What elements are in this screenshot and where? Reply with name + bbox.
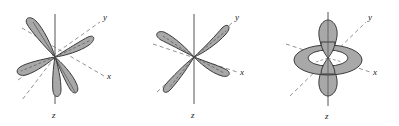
x-axis-label: x xyxy=(106,71,111,81)
z-axis-label: z xyxy=(51,110,56,120)
y-axis-label: y xyxy=(234,12,239,22)
y-axis-label: y xyxy=(367,12,372,22)
orbital-panel-1: y x z xyxy=(0,0,133,126)
x-axis-label: x xyxy=(239,67,244,77)
orbital-lobes xyxy=(157,25,230,92)
x-axis-label: x xyxy=(372,67,377,77)
orbital-panel-3: y x z xyxy=(266,0,399,126)
orbital-figure: y x z xyxy=(0,0,399,126)
y-axis-label: y xyxy=(102,12,107,22)
z-axis-label: z xyxy=(324,111,329,121)
z-axis-label: z xyxy=(190,110,195,120)
orbital-panel-2: y x z xyxy=(133,0,266,126)
